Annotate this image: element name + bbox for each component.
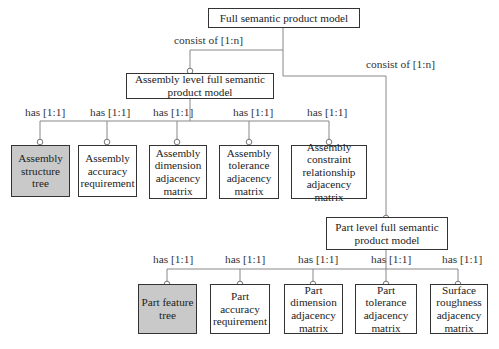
assembly-accuracy-label: Assembly accuracy requirement xyxy=(80,152,134,190)
part-child-node: Part dimension adjacency matrix xyxy=(284,284,343,334)
has-relation-label: has [1:1] xyxy=(153,253,193,265)
assembly-level-label: Assembly level full semantic product mod… xyxy=(129,73,271,98)
surface-roughness-label: Surface roughness adjacency matrix xyxy=(433,284,485,334)
assembly-tolerance-label: Assembly tolerance adjacency matrix xyxy=(222,147,276,197)
assembly-constraint-label: Assembly constraint relationship adjacen… xyxy=(294,141,364,204)
has-relation-label: has [1:1] xyxy=(233,106,273,118)
assembly-child-node: Assembly structure tree xyxy=(11,145,70,197)
has-relation-label: has [1:1] xyxy=(153,106,193,118)
part-tolerance-label: Part tolerance adjacency matrix xyxy=(358,284,414,334)
assembly-child-node: Assembly dimension adjacency matrix xyxy=(149,145,207,199)
has-relation-label: has [1:1] xyxy=(307,106,347,118)
has-relation-label: has [1:1] xyxy=(298,253,338,265)
part-child-node: Surface roughness adjacency matrix xyxy=(430,284,488,334)
assembly-dimension-label: Assembly dimension adjacency matrix xyxy=(152,147,204,197)
has-relation-label: has [1:1] xyxy=(371,253,411,265)
assembly-level-node: Assembly level full semantic product mod… xyxy=(126,73,274,99)
part-child-node: Part tolerance adjacency matrix xyxy=(355,284,417,334)
consist-of-assembly-label: consist of [1:n] xyxy=(174,34,243,46)
consist-of-part-label: consist of [1:n] xyxy=(366,58,435,70)
has-relation-label: has [1:1] xyxy=(90,106,130,118)
part-level-label: Part level full semantic product model xyxy=(329,221,445,246)
root-node: Full semantic product model xyxy=(208,8,360,28)
part-level-node: Part level full semantic product model xyxy=(326,217,448,250)
part-accuracy-label: Part accuracy requirement xyxy=(213,290,267,328)
part-dimension-label: Part dimension adjacency matrix xyxy=(287,284,340,334)
has-relation-label: has [1:1] xyxy=(25,106,65,118)
part-child-node: Part accuracy requirement xyxy=(210,284,270,334)
assembly-child-node: Assembly accuracy requirement xyxy=(78,145,137,197)
assembly-structure-tree-label: Assembly structure tree xyxy=(14,152,67,190)
assembly-child-node: Assembly tolerance adjacency matrix xyxy=(219,145,279,199)
root-label: Full semantic product model xyxy=(220,12,348,25)
has-relation-label: has [1:1] xyxy=(442,253,482,265)
has-relation-label: has [1:1] xyxy=(225,253,265,265)
assembly-child-node: Assembly constraint relationship adjacen… xyxy=(291,145,367,199)
part-feature-tree-label: Part feature tree xyxy=(141,296,194,321)
part-child-node: Part feature tree xyxy=(138,284,197,334)
